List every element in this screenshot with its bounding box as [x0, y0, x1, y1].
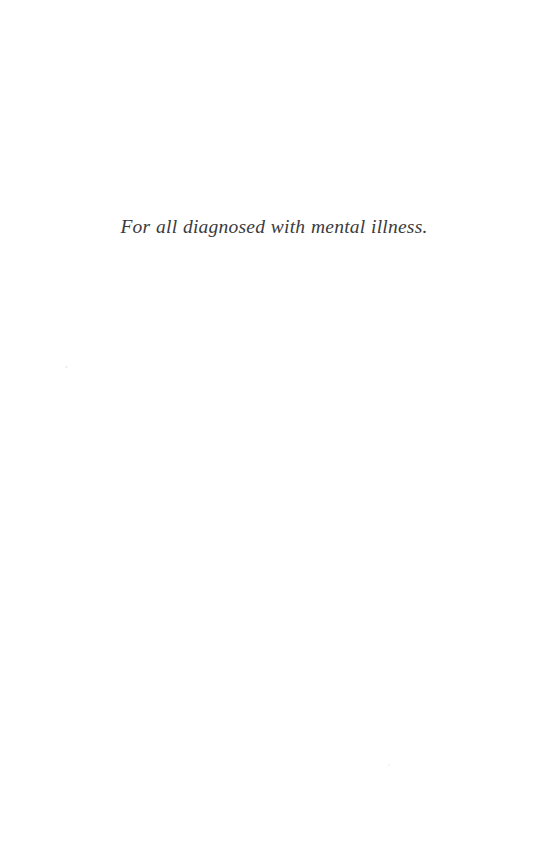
dedication-page: For all diagnosed with mental illness. — [0, 0, 537, 864]
page-speck-upper-left — [65, 366, 68, 368]
page-text-block: For all diagnosed with mental illness. — [0, 0, 537, 864]
dedication-text: For all diagnosed with mental illness. — [120, 214, 427, 240]
page-speck-lower-right — [388, 764, 390, 766]
dedication-block: For all diagnosed with mental illness. — [0, 214, 537, 240]
